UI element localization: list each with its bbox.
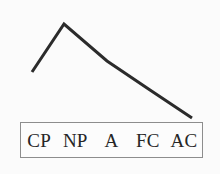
- egogram-figure: CP NP A FC AC: [0, 0, 220, 174]
- ego-state-profile-line: [32, 24, 192, 118]
- ego-state-scale-label-box: CP NP A FC AC: [20, 122, 203, 158]
- scale-label-a: A: [93, 131, 129, 150]
- scale-label-np: NP: [57, 131, 93, 150]
- scale-label-cp: CP: [21, 131, 57, 150]
- scale-label-ac: AC: [166, 131, 202, 150]
- scale-label-fc: FC: [130, 131, 166, 150]
